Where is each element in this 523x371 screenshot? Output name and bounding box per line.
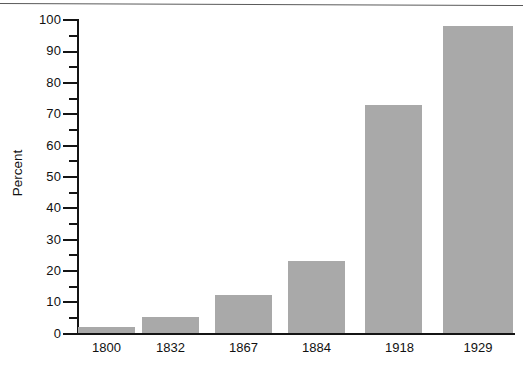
x-tick-label-1929: 1929 — [443, 341, 513, 355]
x-tick-label-1800: 1800 — [78, 341, 135, 355]
bar-1929[interactable] — [443, 26, 513, 333]
y-tick-major-30 — [63, 239, 78, 241]
bar-1832[interactable] — [142, 317, 199, 333]
x-axis-line — [78, 333, 515, 335]
y-tick-label-0: 0 — [1, 327, 61, 340]
bar-1918[interactable] — [365, 105, 422, 333]
y-tick-label-50: 50 — [1, 170, 61, 183]
y-tick-major-60 — [63, 145, 78, 147]
y-tick-major-70 — [63, 113, 78, 115]
bar-1884[interactable] — [288, 261, 345, 333]
y-tick-label-90: 90 — [1, 44, 61, 57]
x-tick-label-1918: 1918 — [371, 341, 428, 355]
y-tick-label-80: 80 — [1, 76, 61, 89]
plot-area — [78, 20, 515, 333]
y-tick-major-80 — [63, 82, 78, 84]
y-tick-label-40: 40 — [1, 201, 61, 214]
y-tick-label-30: 30 — [1, 233, 61, 246]
y-tick-major-0 — [63, 333, 78, 335]
y-tick-major-40 — [63, 207, 78, 209]
y-tick-label-70: 70 — [1, 107, 61, 120]
y-tick-label-20: 20 — [1, 264, 61, 277]
bar-chart: Percent 100 90 80 70 60 50 40 30 20 10 0 — [0, 0, 523, 371]
x-tick-label-1867: 1867 — [215, 341, 272, 355]
y-tick-major-50 — [63, 176, 78, 178]
y-tick-major-90 — [63, 51, 78, 53]
y-tick-label-10: 10 — [1, 295, 61, 308]
y-axis-tick-labels: 100 90 80 70 60 50 40 30 20 10 0 — [0, 0, 61, 371]
y-tick-major-20 — [63, 270, 78, 272]
bar-1867[interactable] — [215, 295, 272, 333]
y-tick-major-100 — [63, 19, 78, 21]
y-tick-label-60: 60 — [1, 139, 61, 152]
y-tick-label-100: 100 — [1, 13, 61, 26]
y-tick-major-10 — [63, 301, 78, 303]
x-tick-label-1884: 1884 — [288, 341, 345, 355]
x-tick-label-1832: 1832 — [142, 341, 199, 355]
bar-1800[interactable] — [78, 327, 135, 333]
